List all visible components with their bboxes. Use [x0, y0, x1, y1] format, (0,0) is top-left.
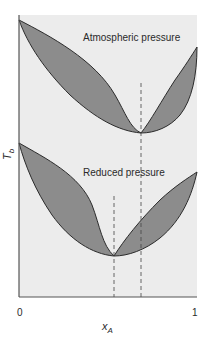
upper-panel-label: Atmospheric pressure	[83, 32, 180, 43]
y-axis-symbol: T	[1, 153, 13, 160]
azeotrope-diagram: Atmospheric pressure Reduced pressure 0 …	[0, 0, 208, 345]
x-axis-subscript: A	[108, 326, 113, 335]
x-tick-1: 1	[192, 307, 198, 318]
x-tick-0: 0	[17, 307, 23, 318]
y-axis-label: Tb	[1, 149, 16, 160]
lower-panel-label: Reduced pressure	[83, 167, 165, 178]
y-axis-subscript: b	[7, 149, 16, 153]
x-axis-label: xA	[102, 320, 113, 335]
